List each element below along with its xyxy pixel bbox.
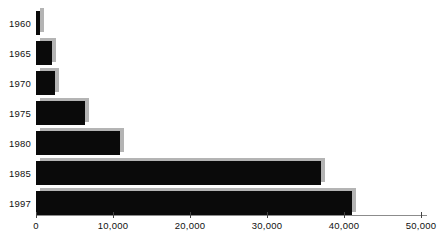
bar-row: 1985 — [0, 158, 438, 188]
bar-fill — [36, 161, 321, 185]
bar-row: 1970 — [0, 68, 438, 98]
bar — [36, 161, 321, 185]
x-axis-tick — [36, 212, 37, 218]
bar-row: 1997 — [0, 188, 438, 218]
bar — [36, 131, 120, 155]
bar-fill — [36, 101, 85, 125]
plot-area: 1960196519701975198019851997 — [0, 0, 438, 248]
category-label: 1997 — [0, 198, 31, 209]
bar-fill — [36, 41, 52, 65]
x-axis-tick-label: 30,000 — [252, 220, 282, 231]
bar-row: 1975 — [0, 98, 438, 128]
x-axis-tick-label: 40,000 — [329, 220, 359, 231]
bar — [36, 191, 352, 215]
bar-row: 1960 — [0, 8, 438, 38]
x-axis-tick-label: 50,000 — [406, 220, 436, 231]
bar-fill — [36, 131, 120, 155]
x-axis-tick — [421, 212, 422, 218]
bar — [36, 11, 40, 35]
bar-fill — [36, 191, 352, 215]
category-label: 1980 — [0, 138, 31, 149]
bar-shadow — [40, 8, 44, 32]
bar-row: 1980 — [0, 128, 438, 158]
category-label: 1965 — [0, 48, 31, 59]
x-axis-tick-label: 10,000 — [98, 220, 128, 231]
category-label: 1960 — [0, 18, 31, 29]
category-label: 1975 — [0, 108, 31, 119]
x-axis-tick — [113, 212, 114, 218]
category-label: 1970 — [0, 78, 31, 89]
bar-fill — [36, 71, 55, 95]
bar — [36, 101, 85, 125]
bar — [36, 71, 55, 95]
category-label: 1985 — [0, 168, 31, 179]
bar-fill — [36, 11, 40, 35]
x-axis-tick-label: 0 — [33, 220, 38, 231]
x-axis-tick — [344, 212, 345, 218]
x-axis-tick — [190, 212, 191, 218]
x-axis-tick — [267, 212, 268, 218]
x-axis-tick-label: 20,000 — [175, 220, 205, 231]
x-axis-line — [36, 215, 427, 216]
bar-row: 1965 — [0, 38, 438, 68]
bar — [36, 41, 52, 65]
bar-chart: 1960196519701975198019851997 010,00020,0… — [0, 0, 438, 248]
